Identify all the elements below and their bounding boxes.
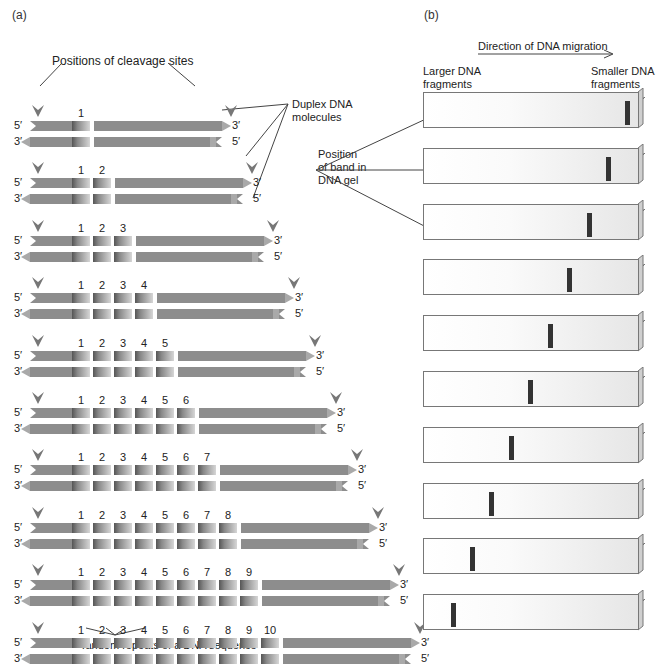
- flanking-segment-left: [30, 424, 72, 434]
- repeat-number: 5: [156, 566, 174, 578]
- cleavage-site-right-icon: [350, 448, 364, 462]
- bottom-strand: [0, 654, 420, 664]
- repeat-number: 3: [114, 279, 132, 291]
- top-strand: [0, 121, 420, 131]
- strand-notch-right: [237, 194, 243, 204]
- dna-band: [548, 324, 553, 348]
- dna-duplex-row: 123456789105′3′3′5′: [0, 621, 420, 668]
- strand-notch-right: [321, 424, 327, 434]
- tandem-repeat-block: [114, 351, 132, 361]
- tandem-repeat-block: [72, 424, 90, 434]
- strand-end-pad: [252, 252, 258, 262]
- tandem-repeat-block: [219, 523, 237, 533]
- tandem-repeat-block: [93, 178, 111, 188]
- repeat-number: 5: [156, 451, 174, 463]
- bottom-strand: [0, 367, 420, 377]
- repeat-number: 3: [114, 451, 132, 463]
- flanking-segment-left: [30, 137, 72, 147]
- dna-band: [567, 268, 572, 292]
- tandem-repeat-block: [219, 539, 237, 549]
- cleavage-site-right-icon: [329, 391, 343, 405]
- repeat-number: 4: [135, 337, 153, 349]
- dna-band: [451, 603, 456, 627]
- tandem-repeat-block: [177, 654, 195, 664]
- repeat-number: 4: [135, 566, 153, 578]
- tandem-repeat-block: [72, 367, 90, 377]
- strand-notch-left: [30, 580, 36, 590]
- tandem-repeat-block: [114, 367, 132, 377]
- strand-arrow-left: [21, 137, 30, 147]
- strand-end-pad: [294, 367, 300, 377]
- tandem-repeat-block: [240, 596, 258, 606]
- repeat-number: 8: [219, 624, 237, 636]
- tandem-repeat-block: [219, 580, 237, 590]
- tandem-repeat-block: [93, 539, 111, 549]
- cleavage-site-right-icon: [245, 161, 259, 175]
- bottom-strand: [0, 309, 420, 319]
- repeat-number: 7: [198, 566, 216, 578]
- tandem-repeat-block: [135, 351, 153, 361]
- cleavage-site-left-icon: [31, 276, 45, 290]
- tandem-repeat-block: [135, 539, 153, 549]
- tandem-repeat-block: [72, 137, 90, 147]
- tandem-repeat-block: [114, 309, 132, 319]
- repeat-number: 9: [240, 566, 258, 578]
- strand-arrow-right: [306, 351, 315, 361]
- strand-notch-left: [30, 523, 36, 533]
- tandem-repeat-block: [198, 539, 216, 549]
- flanking-segment-left: [30, 539, 72, 549]
- tandem-repeat-block: [93, 638, 111, 648]
- flanking-segment-left: [30, 351, 72, 361]
- tandem-repeat-block: [135, 596, 153, 606]
- tandem-repeat-block: [114, 424, 132, 434]
- flanking-segment-right: [136, 236, 264, 246]
- repeat-number: 2: [93, 451, 111, 463]
- gel-lane: [423, 483, 639, 519]
- tandem-repeat-block: [177, 424, 195, 434]
- repeat-number: 6: [177, 451, 195, 463]
- tandem-repeat-block: [135, 481, 153, 491]
- dna-band: [587, 213, 592, 237]
- strand-notch-right: [363, 539, 369, 549]
- flanking-segment-right: [178, 367, 306, 377]
- cleavage-site-left-icon: [31, 448, 45, 462]
- tandem-repeat-block: [156, 465, 174, 475]
- bottom-strand: [0, 596, 420, 606]
- tandem-repeat-block: [198, 638, 216, 648]
- strand-end-5prime-right: 5′: [421, 652, 429, 665]
- top-strand: [0, 236, 420, 246]
- repeat-number: 2: [93, 509, 111, 521]
- repeat-number: 9: [240, 624, 258, 636]
- strand-arrow-right: [264, 236, 273, 246]
- strand-end-pad: [231, 194, 237, 204]
- repeat-number: 5: [156, 624, 174, 636]
- repeat-number: 2: [93, 164, 111, 176]
- strand-arrow-right: [222, 121, 231, 131]
- tandem-repeat-block: [156, 481, 174, 491]
- repeat-number: 6: [177, 509, 195, 521]
- flanking-segment-right: [262, 596, 390, 606]
- tandem-repeat-block: [93, 424, 111, 434]
- tandem-repeat-block: [114, 408, 132, 418]
- tandem-repeat-block: [93, 194, 111, 204]
- tandem-repeat-block: [177, 465, 195, 475]
- tandem-repeat-block: [198, 465, 216, 475]
- tandem-repeat-block: [177, 481, 195, 491]
- strand-notch-left: [30, 293, 36, 303]
- gel-lane: [423, 148, 639, 184]
- strand-notch-right: [258, 252, 264, 262]
- tandem-repeat-block: [93, 408, 111, 418]
- tandem-repeat-block: [114, 580, 132, 590]
- strand-arrow-left: [21, 654, 30, 664]
- tandem-repeat-block: [135, 465, 153, 475]
- repeat-number: 1: [72, 279, 90, 291]
- tandem-repeat-block: [114, 539, 132, 549]
- flanking-segment-left: [30, 481, 72, 491]
- top-strand: [0, 351, 420, 361]
- flanking-segment-right: [94, 121, 222, 131]
- flanking-segment-right: [199, 424, 327, 434]
- strand-end-pad: [273, 309, 279, 319]
- repeat-number: 1: [72, 164, 90, 176]
- dna-duplex-row: 125′3′3′5′: [0, 161, 420, 211]
- repeat-number: 1: [72, 451, 90, 463]
